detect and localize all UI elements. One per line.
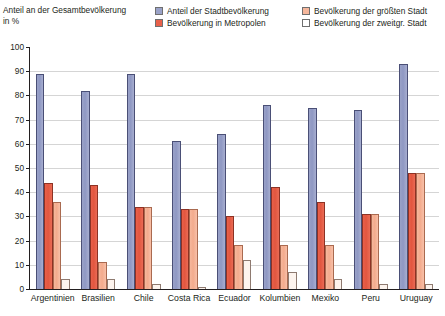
bar-group: Peru [348, 47, 393, 289]
bar-second[interactable] [243, 260, 252, 289]
bar-group: Chile [121, 47, 166, 289]
bar-largest[interactable] [53, 202, 62, 289]
urbanization-bar-chart: Anteil an der Gesamtbevölkerung in % Ant… [0, 0, 445, 316]
bar-urban[interactable] [127, 74, 136, 289]
legend-label-largest: Bevölkerung der größten Stadt [314, 5, 427, 17]
x-axis-label-brasilien: Brasilien [81, 293, 114, 303]
bar-urban[interactable] [217, 134, 226, 289]
x-axis-label-kolumbien: Kolumbien [259, 293, 300, 303]
bar-largest[interactable] [325, 245, 334, 289]
legend-item-largest[interactable]: Bevölkerung der größten Stadt [302, 5, 443, 17]
bar-metro[interactable] [271, 187, 280, 289]
legend-item-urban[interactable]: Anteil der Stadtbevölkerung [155, 5, 302, 17]
bar-second[interactable] [107, 279, 116, 289]
bar-urban[interactable] [354, 110, 363, 289]
bar-urban[interactable] [263, 105, 272, 289]
legend-item-metro[interactable]: Bevölkerung in Metropolen [155, 17, 302, 29]
chart-legend: Anteil der Stadtbevölkerung Bevölkerung … [155, 5, 443, 29]
legend-label-urban: Anteil der Stadtbevölkerung [167, 5, 269, 17]
bar-urban[interactable] [308, 108, 317, 290]
y-tick-label-20: 20 [15, 236, 24, 246]
bar-group: Uruguay [394, 47, 439, 289]
bar-urban[interactable] [172, 141, 181, 289]
y-tick-label-80: 80 [15, 90, 24, 100]
bar-largest[interactable] [98, 262, 107, 289]
bar-largest[interactable] [280, 245, 289, 289]
bar-second[interactable] [288, 272, 297, 289]
bar-largest[interactable] [234, 245, 243, 289]
bar-metro[interactable] [181, 209, 190, 289]
x-axis-label-ecuador: Ecuador [218, 293, 250, 303]
y-tick-label-50: 50 [15, 163, 24, 173]
y-axis-title: Anteil an der Gesamtbevölkerung in % [3, 5, 153, 27]
bar-metro[interactable] [135, 207, 144, 289]
bar-second[interactable] [425, 284, 434, 289]
bar-metro[interactable] [226, 216, 235, 289]
bar-urban[interactable] [399, 64, 408, 289]
bar-largest[interactable] [189, 209, 198, 289]
bar-second[interactable] [152, 284, 161, 289]
bar-group: Ecuador [212, 47, 257, 289]
bar-urban[interactable] [36, 74, 45, 289]
legend-swatch-metro-icon [155, 19, 163, 27]
bar-groups: ArgentinienBrasilienChileCosta RicaEcuad… [30, 47, 439, 289]
y-tick-label-30: 30 [15, 211, 24, 221]
bar-metro[interactable] [317, 202, 326, 289]
legend-label-second: Bevölkerung der zweitgr. Stadt [314, 17, 427, 29]
x-axis-label-argentinien: Argentinien [31, 293, 75, 303]
bar-second[interactable] [334, 279, 343, 289]
bar-second[interactable] [379, 284, 388, 289]
bar-urban[interactable] [81, 91, 90, 289]
bar-largest[interactable] [371, 214, 380, 289]
bar-metro[interactable] [408, 173, 417, 289]
legend-item-second[interactable]: Bevölkerung der zweitgr. Stadt [302, 17, 443, 29]
bar-group: Argentinien [30, 47, 75, 289]
y-tick-mark-0 [26, 289, 30, 290]
x-axis-label-chile: Chile [134, 293, 154, 303]
x-axis-label-peru: Peru [362, 293, 380, 303]
legend-swatch-second-icon [302, 19, 310, 27]
bar-group: Brasilien [75, 47, 120, 289]
y-tick-label-60: 60 [15, 139, 24, 149]
legend-swatch-urban-icon [155, 7, 163, 15]
y-tick-label-100: 100 [10, 42, 24, 52]
bar-second[interactable] [61, 279, 70, 289]
bar-group: Mexiko [303, 47, 348, 289]
bar-group: Kolumbien [257, 47, 302, 289]
bar-metro[interactable] [362, 214, 371, 289]
y-tick-label-40: 40 [15, 187, 24, 197]
y-tick-label-0: 0 [19, 284, 24, 294]
x-axis-label-mexiko: Mexiko [312, 293, 340, 303]
x-axis-label-uruguay: Uruguay [400, 293, 433, 303]
legend-swatch-largest-icon [302, 7, 310, 15]
bar-largest[interactable] [416, 173, 425, 289]
bar-metro[interactable] [44, 183, 53, 289]
bar-metro[interactable] [90, 185, 99, 289]
bar-largest[interactable] [144, 207, 153, 289]
x-axis-label-costa-rica: Costa Rica [168, 293, 211, 303]
y-tick-label-70: 70 [15, 115, 24, 125]
bar-group: Costa Rica [166, 47, 211, 289]
y-tick-label-10: 10 [15, 260, 24, 270]
plot-area: 0102030405060708090100 ArgentinienBrasil… [29, 47, 439, 290]
y-tick-label-90: 90 [15, 66, 24, 76]
legend-label-metro: Bevölkerung in Metropolen [167, 17, 266, 29]
bar-second[interactable] [198, 287, 207, 289]
